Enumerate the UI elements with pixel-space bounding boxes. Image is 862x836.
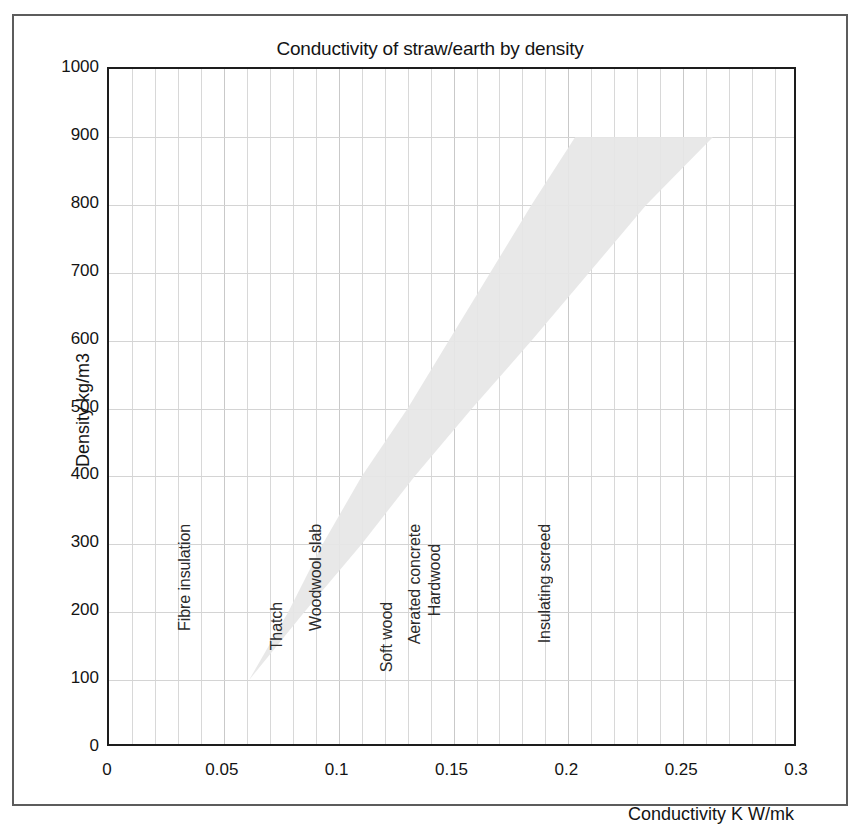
x-axis-tick-label: 0.25 [665,760,698,780]
x-axis-tick-label: 0.15 [435,760,468,780]
x-axis-title: Conductivity K W/mk [628,804,794,825]
y-axis-tick-label: 300 [71,532,99,552]
y-axis-tick-label: 200 [71,600,99,620]
y-axis-tick-labels: 01002003004005006007008009001000 [14,16,99,836]
y-axis-tick-label: 600 [71,329,99,349]
band-layer [109,69,794,744]
x-axis-tick-label: 0.2 [554,760,578,780]
chart-title: Conductivity of straw/earth by density [14,38,846,60]
y-axis-tick-label: 0 [90,736,99,756]
x-axis-tick-label: 0.3 [784,760,808,780]
material-marker-label: Fibre insulation [177,524,193,631]
material-marker-label: Insulating screed [537,524,553,643]
material-marker-label: Aerated concrete [407,524,423,644]
material-marker-label: Soft wood [379,602,395,672]
material-marker-label: Hardwood [427,544,443,616]
x-axis-tick-labels: 00.050.10.150.20.250.3 [14,760,862,788]
y-axis-tick-label: 1000 [61,57,99,77]
y-axis-tick-label: 500 [71,397,99,417]
x-axis-tick-label: 0.1 [325,760,349,780]
material-marker-label: Thatch [269,602,285,650]
y-axis-tick-label: 400 [71,464,99,484]
y-axis-tick-label: 800 [71,193,99,213]
conductivity-band-svg [109,69,796,746]
plot-area: Fibre insulationThatchWoodwool slabSoft … [107,67,796,746]
x-axis-tick-label: 0 [102,760,111,780]
y-axis-tick-label: 700 [71,261,99,281]
figure-frame: Conductivity of straw/earth by density F… [12,14,848,806]
material-marker-label: Woodwool slab [308,524,324,631]
y-axis-tick-label: 900 [71,125,99,145]
y-axis-tick-label: 100 [71,668,99,688]
x-axis-tick-label: 0.05 [205,760,238,780]
